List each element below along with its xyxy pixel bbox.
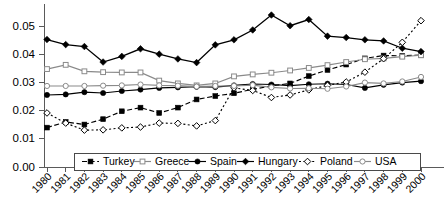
- data-point: [156, 120, 163, 127]
- x-tick-label: 1995: [309, 170, 334, 195]
- legend-marker-turkey: [88, 159, 93, 164]
- data-point: [362, 37, 369, 44]
- data-point: [138, 87, 143, 92]
- data-point: [44, 36, 51, 43]
- data-point: [138, 82, 143, 87]
- data-point: [344, 84, 349, 89]
- y-tick-label: 0.00: [13, 161, 35, 173]
- x-tick-label: 1985: [122, 170, 147, 195]
- data-point: [418, 17, 425, 24]
- data-point: [287, 92, 294, 99]
- data-point: [82, 90, 87, 95]
- data-point: [268, 94, 275, 101]
- data-point: [194, 84, 199, 89]
- data-point: [269, 85, 274, 90]
- data-point: [212, 117, 219, 124]
- series-layer: [44, 12, 425, 134]
- data-point: [82, 83, 87, 88]
- x-tick-label: 1989: [197, 170, 222, 195]
- y-tick-label: 0.04: [13, 48, 36, 60]
- x-tick-label: 1980: [29, 170, 54, 195]
- data-point: [157, 83, 162, 88]
- data-point: [101, 83, 106, 88]
- data-point: [306, 66, 311, 71]
- data-point: [363, 57, 368, 62]
- chart-canvas: 0.000.010.020.030.040.05 198019811982198…: [0, 0, 446, 213]
- x-tick-label: 1987: [160, 170, 185, 195]
- data-point: [418, 74, 423, 79]
- data-point: [137, 46, 144, 53]
- y-axis-ticks: 0.000.010.020.030.040.05: [13, 20, 44, 173]
- data-point: [119, 109, 124, 114]
- data-point: [269, 70, 274, 75]
- y-tick-label: 0.03: [13, 76, 35, 88]
- data-point: [137, 124, 144, 131]
- data-point: [62, 41, 69, 48]
- x-tick-label: 1998: [366, 170, 391, 195]
- data-point: [44, 110, 51, 117]
- data-point: [362, 69, 369, 76]
- data-point: [250, 83, 255, 88]
- data-point: [194, 97, 199, 102]
- x-tick-label: 1982: [66, 170, 91, 195]
- x-tick-label: 1990: [216, 170, 241, 195]
- data-point: [138, 70, 143, 75]
- data-point: [119, 88, 124, 93]
- data-point: [45, 67, 50, 72]
- data-point: [193, 123, 200, 130]
- data-point: [81, 127, 88, 134]
- data-point: [325, 86, 330, 91]
- data-point: [175, 120, 182, 127]
- data-point: [250, 72, 255, 77]
- data-point: [231, 37, 238, 44]
- data-point: [119, 70, 124, 75]
- data-point: [306, 86, 311, 91]
- data-point: [138, 105, 143, 110]
- data-point: [119, 53, 126, 60]
- data-point: [63, 62, 68, 67]
- data-point: [63, 83, 68, 88]
- data-point: [101, 70, 106, 75]
- x-tick-label: 1991: [235, 170, 260, 195]
- data-point: [325, 63, 330, 68]
- x-tick-label: 1996: [328, 170, 353, 195]
- legend-marker-greece: [140, 159, 145, 164]
- y-tick-label: 0.01: [13, 132, 35, 144]
- legend-label-usa: USA: [375, 155, 397, 167]
- data-point: [175, 56, 182, 63]
- data-point: [325, 68, 330, 73]
- data-point: [232, 74, 237, 79]
- x-tick-label: 1993: [272, 170, 297, 195]
- data-point: [175, 83, 180, 88]
- data-point: [287, 22, 294, 29]
- data-point: [231, 83, 236, 88]
- x-tick-label: 1984: [104, 170, 129, 195]
- data-point: [344, 60, 349, 65]
- data-point: [362, 85, 367, 90]
- data-point: [362, 80, 367, 85]
- line-chart: 0.000.010.020.030.040.05 198019811982198…: [0, 0, 446, 213]
- legend-marker-spain: [195, 159, 200, 164]
- legend-label-turkey: Turkey: [103, 155, 135, 167]
- data-point: [400, 79, 405, 84]
- data-point: [156, 51, 163, 58]
- x-tick-label: 1983: [85, 170, 110, 195]
- data-point: [213, 94, 218, 99]
- data-point: [45, 125, 50, 130]
- legend-label-hungary: Hungary: [258, 155, 298, 167]
- data-point: [380, 38, 387, 45]
- y-tick-label: 0.05: [13, 20, 35, 32]
- data-point: [82, 69, 87, 74]
- data-point: [157, 111, 162, 116]
- data-point: [63, 92, 68, 97]
- data-point: [213, 83, 218, 88]
- data-point: [119, 125, 126, 132]
- data-point: [100, 127, 107, 134]
- x-tick-label: 1988: [179, 170, 204, 195]
- data-point: [306, 74, 311, 79]
- data-point: [400, 54, 405, 59]
- y-tick-label: 0.02: [13, 104, 35, 116]
- x-tick-label: 2000: [403, 170, 428, 195]
- data-point: [101, 117, 106, 122]
- data-point: [343, 34, 350, 41]
